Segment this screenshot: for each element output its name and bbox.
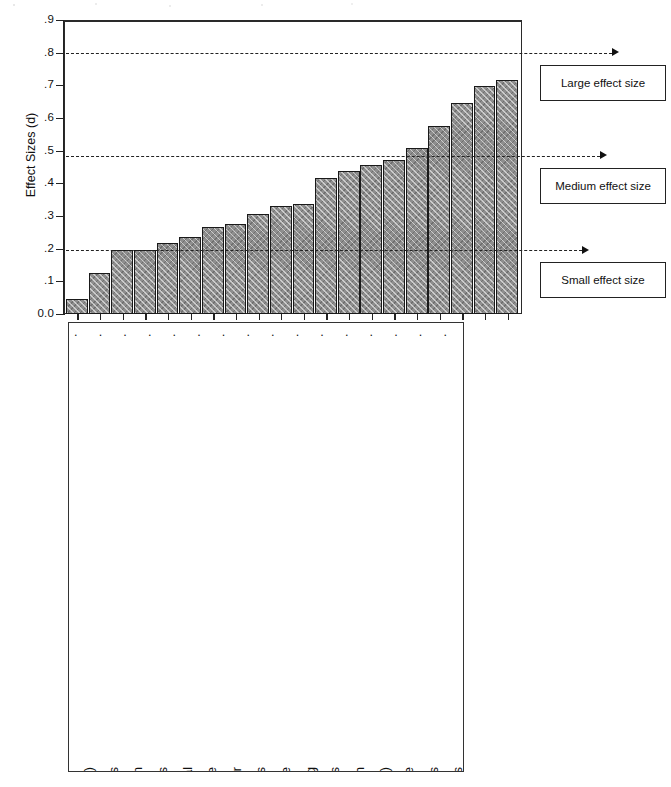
legend-item-label: 5 men have higher self esteem (age 15) — [83, 767, 96, 772]
x-axis-tick — [145, 314, 146, 320]
y-axis-tick — [56, 183, 64, 184]
bar-series — [66, 21, 520, 314]
reference-arrow-icon — [600, 151, 607, 159]
legend-bullet: . — [419, 325, 423, 339]
legend-item-label: 12 men more likely to beat up hetero par… — [255, 767, 268, 772]
legend-item-label: 9 men show higher sexual arousal — [182, 767, 195, 772]
bar[interactable] — [111, 250, 133, 314]
y-axis-tick — [56, 118, 64, 119]
x-axis-tick — [508, 314, 509, 320]
legend-bullet: . — [148, 325, 152, 339]
legend-bullet: . — [320, 325, 324, 339]
bar[interactable] — [270, 206, 292, 314]
legend-bullet: . — [222, 325, 226, 339]
legend-bullet: . — [271, 325, 275, 339]
bar[interactable] — [225, 224, 247, 314]
x-axis-tick — [394, 314, 395, 320]
bar[interactable] — [66, 299, 88, 314]
bar[interactable] — [293, 204, 315, 314]
x-axis-tick — [326, 314, 327, 320]
x-axis-tick — [440, 314, 441, 320]
bar[interactable] — [89, 273, 111, 314]
bar[interactable] — [383, 160, 405, 314]
y-axis-tick — [56, 249, 64, 250]
effect-size-note-large: Large effect size — [540, 65, 666, 101]
bar[interactable] — [134, 250, 156, 314]
legend-bullet: . — [74, 325, 78, 339]
x-axis-tick — [349, 314, 350, 320]
scan-artifact-band — [0, 0, 671, 11]
legend-item-label: 8 women more likely to throw objects at … — [157, 767, 170, 772]
y-axis-tick-label: 0.0 — [37, 307, 54, 319]
y-axis-tick-label: .4 — [44, 176, 54, 188]
legend-bullet: . — [345, 325, 349, 339]
legend-bullet: . — [246, 325, 250, 339]
x-axis-tick — [259, 314, 260, 320]
y-axis-tick — [56, 85, 64, 86]
y-axis-tick — [56, 281, 64, 282]
category-legend-box: .5 men have higher self esteem (age 15).… — [68, 322, 464, 772]
y-axis-tick-label: .2 — [44, 242, 54, 254]
bar[interactable] — [360, 165, 382, 314]
y-axis-tick-labels: 0.0.1.2.3.4.5.6.7.8.9 — [0, 0, 54, 330]
x-axis-tick — [462, 314, 463, 320]
x-axis-tick — [485, 314, 486, 320]
legend-bullet: . — [99, 325, 103, 339]
y-axis-tick — [56, 20, 64, 21]
y-axis-tick-label: .6 — [44, 111, 54, 123]
legend-bullet: . — [123, 325, 127, 339]
bar[interactable] — [315, 178, 337, 314]
legend-item-label: 15 men better spatial skills — [329, 767, 342, 772]
legend-item-label: 10 women more likely to succumb to group… — [206, 767, 219, 772]
y-axis-tick — [56, 216, 64, 217]
bar[interactable] — [406, 148, 428, 314]
x-axis-tick — [281, 314, 282, 320]
legend-bullet: . — [370, 325, 374, 339]
x-axis-tick — [236, 314, 237, 320]
bar[interactable] — [474, 86, 496, 314]
bar[interactable] — [451, 103, 473, 314]
legend-item-label: 14 women better at nonverbal decoding — [305, 767, 318, 772]
y-axis-tick — [56, 314, 64, 315]
legend-item-label: 13 boys more physically active — [280, 767, 293, 772]
legend-bullet: . — [173, 325, 177, 339]
legend-bullet: . — [296, 325, 300, 339]
y-axis-tick — [56, 53, 64, 54]
x-axis-tick — [77, 314, 78, 320]
y-axis-tick-label: .9 — [44, 13, 54, 25]
y-axis-tick-label: .5 — [44, 144, 54, 156]
legend-item-label: 7 college men more aggressive than colle… — [132, 767, 145, 772]
y-axis-tick-label: .7 — [44, 78, 54, 90]
bar[interactable] — [338, 171, 360, 314]
x-axis-tick — [417, 314, 418, 320]
bar[interactable] — [247, 214, 269, 314]
bar[interactable] — [428, 126, 450, 314]
x-axis-tick — [304, 314, 305, 320]
reference-line — [66, 250, 582, 251]
x-axis-tick — [100, 314, 101, 320]
legend-item-label: 11 men provide more physical helping beh… — [231, 767, 244, 772]
x-axis-tick — [372, 314, 373, 320]
legend-item-label: 19 men make more speech errors — [428, 767, 441, 772]
y-axis-tick-label: .1 — [44, 274, 54, 286]
legend-bullet: . — [394, 325, 398, 339]
reference-line — [66, 53, 612, 54]
effect-size-note-medium: Medium effect size — [540, 168, 666, 204]
y-axis-tick-label: .3 — [44, 209, 54, 221]
x-axis-tick — [168, 314, 169, 320]
effect-size-note-small: Small effect size — [540, 262, 666, 298]
legend-bullet: . — [197, 325, 201, 339]
legend-bullet: . — [443, 325, 447, 339]
bar[interactable] — [202, 227, 224, 314]
legend-item-label: 18 women smile more — [403, 767, 416, 772]
legend-item-label: 20 men show more physical restlessness — [452, 767, 464, 772]
bar[interactable] — [496, 80, 518, 314]
y-axis-tick — [56, 151, 64, 152]
x-axis-tick — [191, 314, 192, 320]
bar[interactable] — [157, 243, 179, 314]
x-axis-tick — [213, 314, 214, 320]
legend-item-label: 17 boys more aggressive (compare to #7) — [379, 767, 392, 772]
legend-item-label: 16 men score higher on SAT Math — [354, 767, 367, 772]
legend-item-label: 6 women better at verbal skills — [108, 767, 121, 772]
bar[interactable] — [179, 237, 201, 314]
